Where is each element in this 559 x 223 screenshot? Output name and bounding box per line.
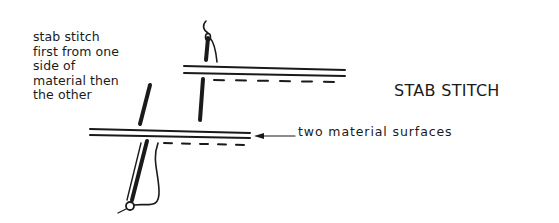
instruction-line: material then [33,74,119,89]
instruction-line: the other [33,88,119,103]
upper-needle-icon [200,21,217,120]
lower-material-surfaces [90,129,250,145]
instruction-text: stab stitch first from one side of mater… [33,30,119,103]
pointer-arrow-icon [254,133,295,139]
lower-needle-icon [118,85,159,213]
stab-stitch-diagram: stab stitch first from one side of mater… [0,0,559,223]
instruction-line: first from one [33,45,119,60]
upper-material-surfaces [184,66,345,82]
instruction-line: stab stitch [33,30,119,45]
diagram-title: STAB STITCH [394,81,500,100]
instruction-line: side of [33,59,119,74]
material-surfaces-label: two material surfaces [298,124,453,139]
